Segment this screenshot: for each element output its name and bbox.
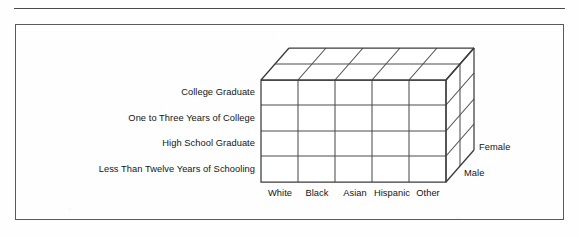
figure-page: College Graduate One to Three Years of C… [0,0,579,237]
row-label-less-than-twelve-years-of-schooling: Less Than Twelve Years of Schooling [99,164,255,175]
column-label-other: Other [416,188,440,199]
depth-label-female: Female [479,142,510,153]
row-label-one-to-three-years-of-college: One to Three Years of College [128,113,255,124]
row-label-high-school-graduate: High School Graduate [162,138,255,149]
column-label-black: Black [305,188,328,199]
column-label-asian: Asian [343,188,367,199]
row-label-college-graduate: College Graduate [181,87,255,98]
column-label-hispanic: Hispanic [374,188,410,199]
column-label-white: White [268,188,292,199]
depth-label-male: Male [464,168,484,179]
data-cube-graphic [0,0,579,237]
